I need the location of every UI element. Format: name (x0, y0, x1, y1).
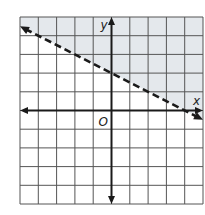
x-axis-label: x (192, 94, 201, 108)
coordinate-plane: x y O (0, 0, 205, 215)
x-axis-left-arrow-icon (20, 107, 28, 114)
y-axis-label: y (100, 18, 109, 32)
y-axis-down-arrow-icon (108, 196, 115, 204)
origin-label: O (99, 115, 108, 129)
